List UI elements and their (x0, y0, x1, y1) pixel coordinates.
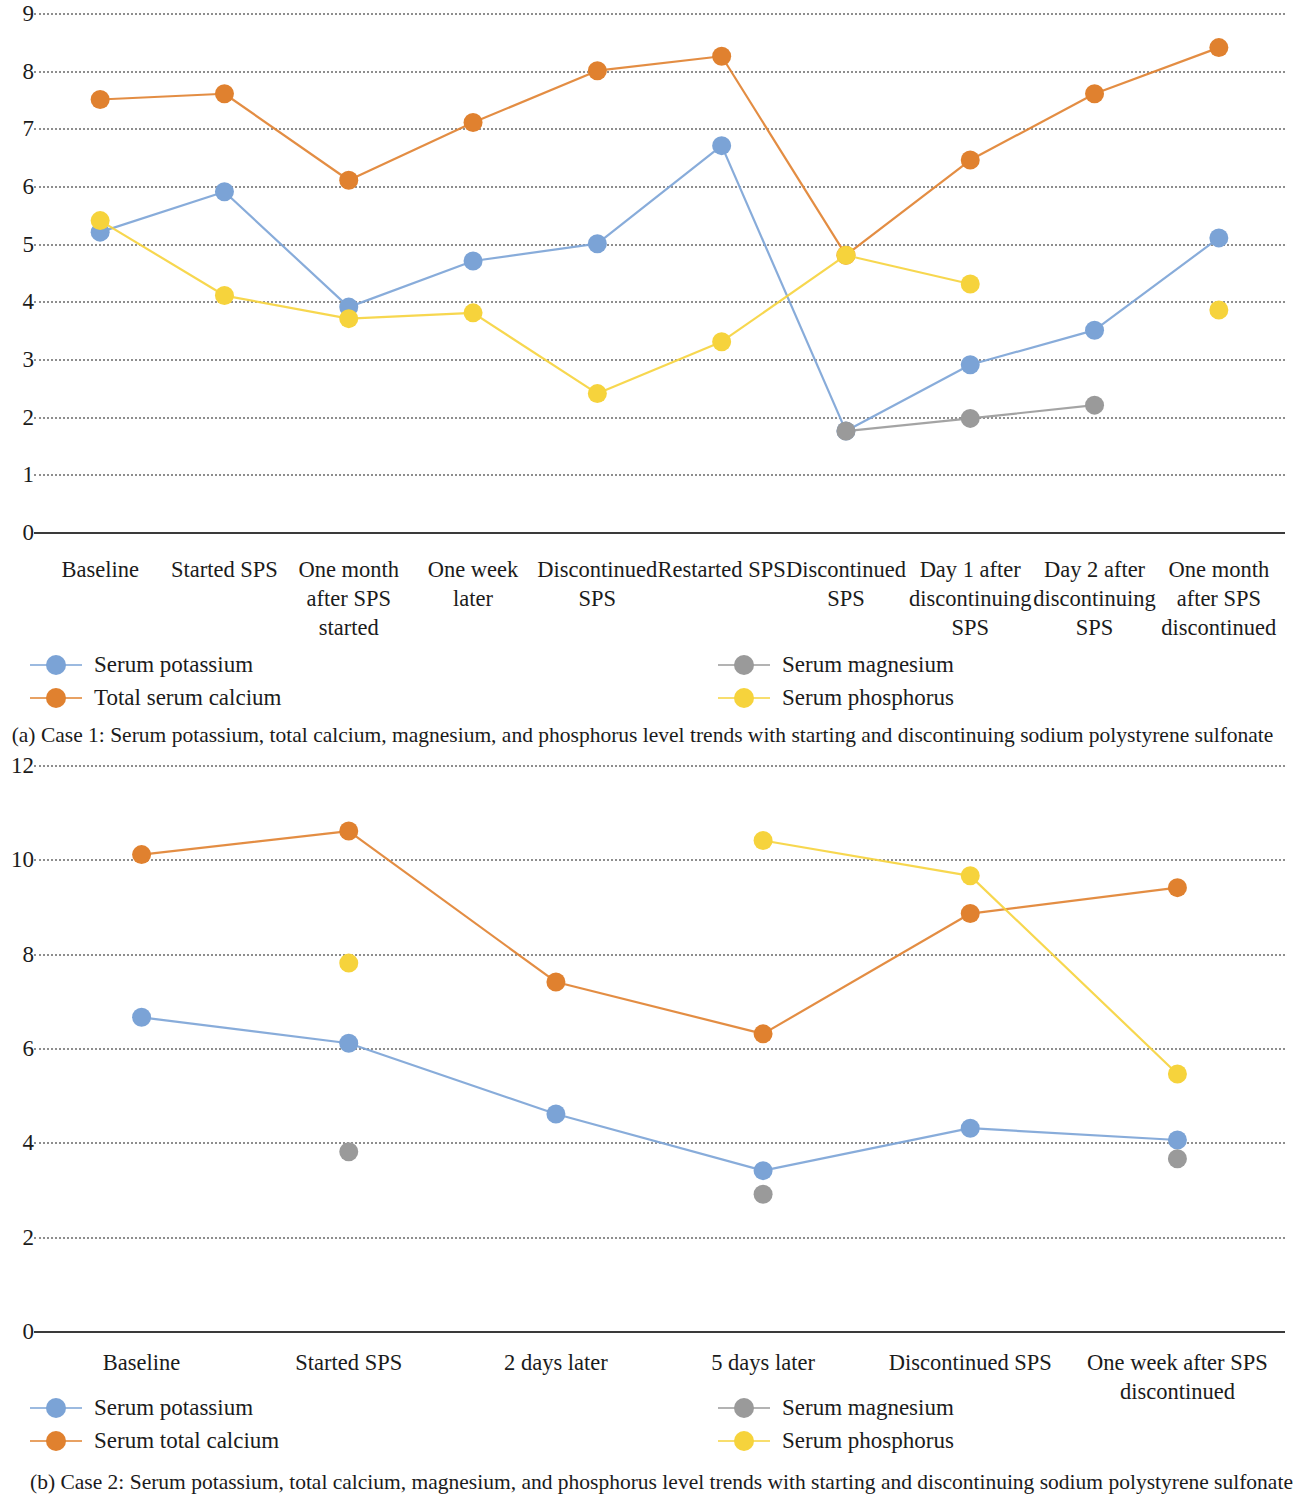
data-point (836, 422, 855, 441)
series-line (100, 48, 1219, 256)
data-point (91, 90, 110, 109)
y-tick-label: 7 (23, 117, 35, 140)
data-point (588, 61, 607, 80)
legend-item[interactable]: Serum magnesium (718, 1395, 954, 1421)
chart-panel-b: 121086420 BaselineStarted SPS2 days late… (0, 755, 1285, 1500)
x-tick-label: One month after SPS discontinued (1142, 556, 1296, 642)
y-tick-label: 0 (23, 521, 35, 544)
legend-label: Serum potassium (94, 1395, 253, 1421)
legend-marker-icon (30, 1398, 82, 1418)
legend-label: Serum magnesium (782, 1395, 954, 1421)
legend-item[interactable]: Serum phosphorus (718, 685, 954, 711)
data-point (588, 234, 607, 253)
y-tick-label: 6 (23, 175, 35, 198)
series-line (142, 1017, 1178, 1170)
legend-item[interactable]: Serum phosphorus (718, 1428, 954, 1454)
data-point (961, 355, 980, 374)
legend-label: Serum phosphorus (782, 1428, 954, 1454)
data-point (464, 251, 483, 270)
legend-item[interactable]: Serum total calcium (30, 1428, 279, 1454)
data-point (339, 309, 358, 328)
data-point (754, 831, 773, 850)
y-tick-label: 1 (23, 463, 35, 486)
y-axis-labels-b: 121086420 (0, 755, 34, 1335)
data-point (1209, 228, 1228, 247)
legend-marker-icon (718, 688, 770, 708)
data-point (464, 303, 483, 322)
legend-label: Total serum calcium (94, 685, 281, 711)
series-line (142, 831, 1178, 1034)
data-point (588, 384, 607, 403)
data-point (215, 182, 234, 201)
series-plot (34, 0, 1285, 545)
y-tick-label: 3 (23, 348, 35, 371)
x-axis-labels-a: BaselineStarted SPSOne month after SPS s… (34, 540, 1285, 650)
data-point (339, 822, 358, 841)
legend-marker-icon (718, 655, 770, 675)
y-tick-label: 4 (23, 1131, 35, 1154)
data-point (961, 866, 980, 885)
data-point (132, 845, 151, 864)
data-point (754, 1185, 773, 1204)
data-point (1168, 1149, 1187, 1168)
data-point (339, 1142, 358, 1161)
y-tick-label: 12 (11, 754, 34, 777)
data-point (339, 954, 358, 973)
legend-item[interactable]: Serum potassium (30, 652, 253, 678)
data-point (754, 1024, 773, 1043)
legend-item[interactable]: Serum magnesium (718, 652, 954, 678)
legend-a: Serum potassiumTotal serum calciumSerum … (0, 652, 1285, 712)
legend-item[interactable]: Total serum calcium (30, 685, 281, 711)
data-point (1085, 84, 1104, 103)
data-point (1209, 300, 1228, 319)
plot-area-b: 121086420 (0, 755, 1285, 1335)
caption-b: (b) Case 2: Serum potassium, total calci… (0, 1469, 1297, 1497)
data-point (754, 1161, 773, 1180)
plot-area-a: 9876543210 (0, 0, 1285, 545)
legend-marker-icon (30, 688, 82, 708)
y-tick-label: 2 (23, 1225, 35, 1248)
legend-marker-icon (718, 1431, 770, 1451)
legend-marker-icon (30, 1431, 82, 1451)
caption-a: (a) Case 1: Serum potassium, total calci… (0, 722, 1285, 750)
data-point (961, 275, 980, 294)
data-point (961, 904, 980, 923)
data-point (961, 409, 980, 428)
series-svg-a (34, 0, 1285, 545)
data-point (1085, 321, 1104, 340)
legend-item[interactable]: Serum potassium (30, 1395, 253, 1421)
data-point (215, 84, 234, 103)
chart-panel-a: 9876543210 BaselineStarted SPSOne month … (0, 0, 1285, 745)
legend-label: Serum total calcium (94, 1428, 279, 1454)
series-line (100, 146, 1219, 431)
data-point (339, 171, 358, 190)
legend-label: Serum potassium (94, 652, 253, 678)
data-point (712, 332, 731, 351)
series-svg-b (34, 755, 1285, 1335)
y-axis-labels-a: 9876543210 (0, 0, 34, 545)
y-tick-label: 6 (23, 1037, 35, 1060)
data-point (1168, 878, 1187, 897)
data-point (339, 1034, 358, 1053)
data-point (712, 47, 731, 66)
legend-marker-icon (718, 1398, 770, 1418)
y-tick-label: 9 (23, 2, 35, 25)
y-tick-label: 8 (23, 59, 35, 82)
data-point (961, 1119, 980, 1138)
legend-label: Serum phosphorus (782, 685, 954, 711)
data-point (1168, 1064, 1187, 1083)
data-point (1168, 1130, 1187, 1149)
y-tick-label: 8 (23, 942, 35, 965)
series-plot (34, 755, 1285, 1335)
data-point (1209, 38, 1228, 57)
legend-label: Serum magnesium (782, 652, 954, 678)
data-point (836, 246, 855, 265)
y-tick-label: 2 (23, 405, 35, 428)
y-tick-label: 4 (23, 290, 35, 313)
legend-b: Serum potassiumSerum total calciumSerum … (0, 1395, 1285, 1455)
data-point (712, 136, 731, 155)
legend-marker-icon (30, 655, 82, 675)
data-point (215, 286, 234, 305)
y-tick-label: 10 (11, 848, 34, 871)
data-point (91, 211, 110, 230)
